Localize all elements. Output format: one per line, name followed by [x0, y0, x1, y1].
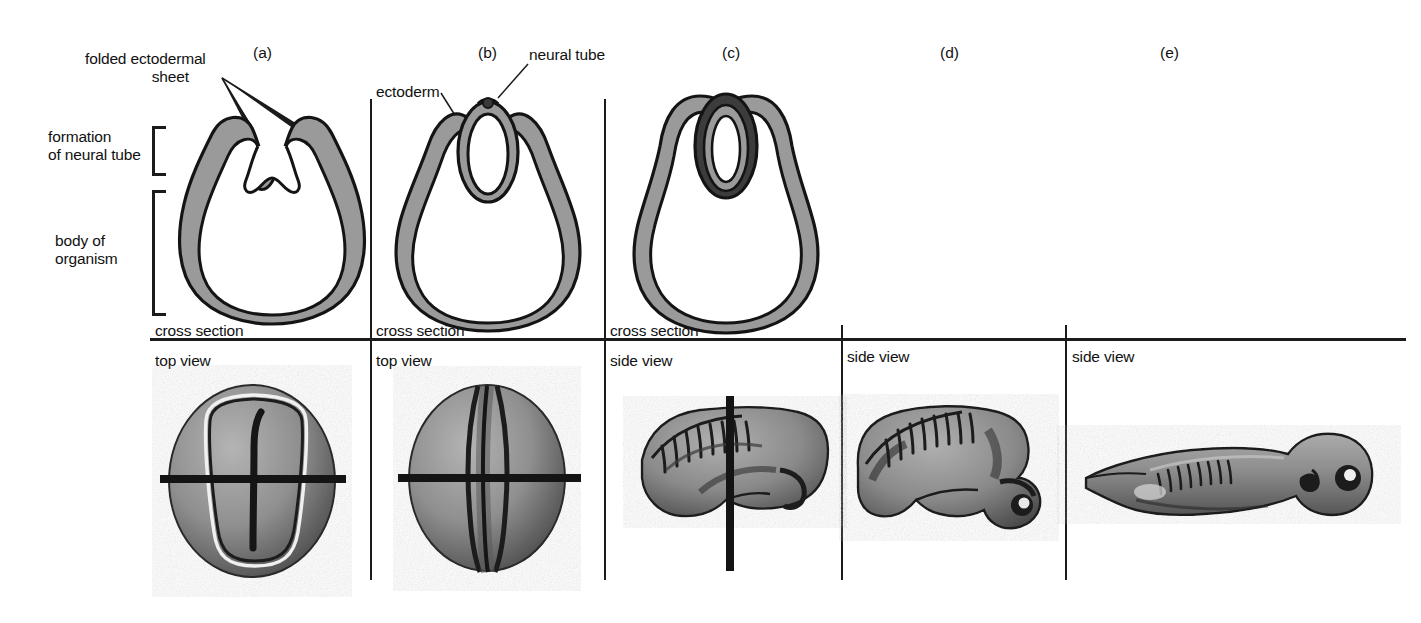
neural-tube-development-figure: folded ectodermal sheet (a) (b) (c) (d) … [0, 0, 1421, 623]
panel-b-cross-section [396, 98, 580, 331]
section-line-c [726, 396, 734, 571]
embryo-drawings [0, 0, 1421, 623]
section-line-a [160, 475, 346, 483]
panel-d-side-view-specimen [858, 406, 1040, 528]
panel-c-side-view-specimen [642, 407, 828, 516]
section-line-b [398, 474, 581, 482]
panel-a-cross-section [180, 117, 365, 324]
panel-e-side-view-tadpole [1086, 434, 1372, 515]
panel-c-cross-section [634, 94, 818, 333]
